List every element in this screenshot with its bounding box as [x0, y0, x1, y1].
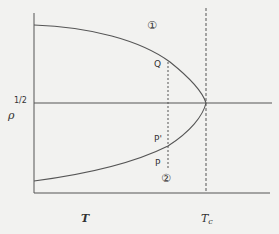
point-p-prime-label: P' [154, 134, 162, 144]
x-axis-label: T [81, 212, 90, 225]
point-p-label: P [155, 158, 161, 168]
region-1-label: ② [161, 172, 171, 185]
diagram-canvas: ① ② Q P' P 1/2 ρ T Tc [0, 0, 279, 234]
critical-temperature-label: Tc [201, 212, 213, 226]
y-tick-half: 1/2 [14, 96, 27, 105]
region-2-label: ① [147, 19, 157, 32]
point-q-label: Q [154, 59, 161, 69]
y-axis-label: ρ [7, 109, 15, 122]
